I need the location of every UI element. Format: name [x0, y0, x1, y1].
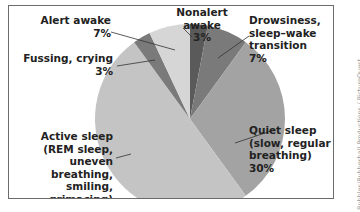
label-fussing-crying: Fussing, crying 3%: [23, 52, 113, 77]
label-drowsiness: Drowsiness, sleep–wake transition 7%: [249, 14, 333, 64]
label-nonalert-awake: Nonalert awake 3%: [157, 6, 247, 44]
label-alert-awake: Alert awake 7%: [39, 14, 111, 39]
label-quiet-sleep: Quiet sleep (slow, regular breathing) 30…: [249, 124, 333, 174]
label-active-sleep: Active sleep (REM sleep, uneven breathin…: [11, 130, 113, 199]
chart-frame: Alert awake 7% Fussing, crying 3% Nonale…: [8, 5, 334, 199]
photo-credit: Bubbles/Rubberball Productions / Picture…: [348, 82, 358, 212]
